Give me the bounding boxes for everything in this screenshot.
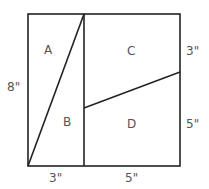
dimension-bottom-left: 3" <box>49 171 62 185</box>
dimension-right-top: 3" <box>186 44 199 58</box>
diagonal-line <box>28 14 84 166</box>
dimension-bottom-right: 5" <box>125 171 138 185</box>
sloped-line <box>84 72 180 108</box>
dimension-right-bottom: 5" <box>186 117 199 131</box>
outer-square <box>28 14 180 166</box>
dimension-left-height: 8" <box>7 80 20 94</box>
dissection-diagram: A B C D 8" 3" 5" 3" 5" <box>0 0 209 189</box>
region-label-b: B <box>63 115 71 129</box>
region-label-c: C <box>127 44 135 58</box>
region-label-a: A <box>44 43 53 57</box>
region-label-d: D <box>127 117 136 131</box>
